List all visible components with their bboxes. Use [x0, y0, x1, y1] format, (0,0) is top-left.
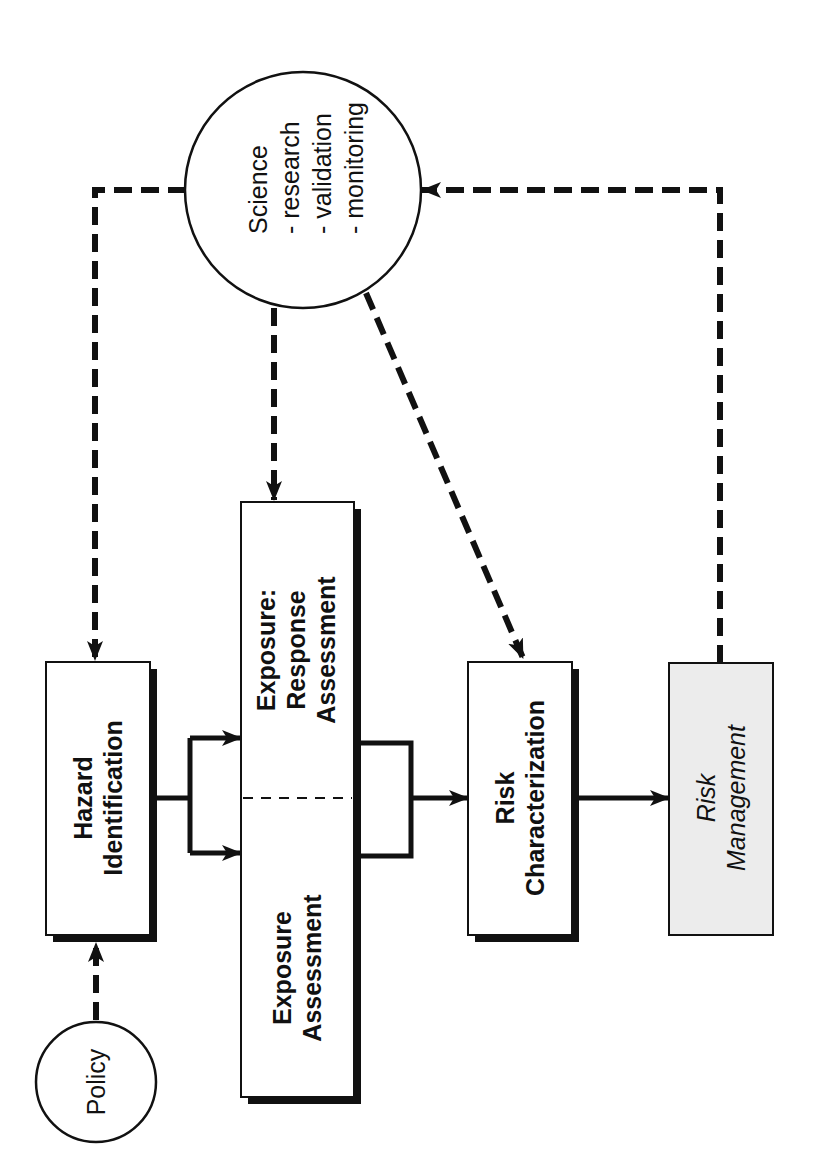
- exposure-response-line2: Response: [282, 590, 310, 710]
- exposure-response-line3: Assessment: [312, 576, 340, 724]
- dashed-connectors: [95, 190, 720, 1020]
- node-hazard-identification: Hazard Identification: [46, 662, 157, 942]
- risk-mgmt-line1: Risk: [692, 772, 720, 822]
- hazard-line2: Identification: [99, 720, 127, 876]
- edge-exposure-bracket: [360, 743, 411, 856]
- node-risk-characterization: Risk Characterization: [468, 662, 579, 942]
- risk-assessment-diagram: Science - research - validation - monito…: [0, 0, 822, 1174]
- exposure-line2: Assessment: [298, 894, 326, 1042]
- science-item-research: - research: [276, 121, 304, 234]
- hazard-line1: Hazard: [69, 756, 97, 839]
- node-policy: Policy: [36, 1022, 156, 1142]
- risk-mgmt-line2: Management: [722, 724, 750, 871]
- exposure-response-line1: Exposure:: [252, 589, 280, 711]
- edge-riskmgmt-to-science: [422, 190, 720, 663]
- node-exposure-response-assessment: Exposure: Response Assessment: [252, 576, 340, 724]
- node-risk-management: Risk Management: [669, 663, 773, 935]
- edge-science-to-hazard: [95, 190, 186, 660]
- solid-connectors: [157, 738, 669, 856]
- science-item-monitoring: - monitoring: [340, 102, 368, 234]
- risk-char-line2: Characterization: [521, 700, 549, 896]
- science-label: Science: [244, 145, 272, 234]
- exposure-line1: Exposure: [268, 911, 296, 1025]
- science-item-validation: - validation: [308, 113, 336, 234]
- node-science: Science - research - validation - monito…: [185, 72, 421, 308]
- edge-science-to-risk-char: [366, 293, 523, 658]
- policy-label: Policy: [82, 1048, 110, 1115]
- risk-char-line1: Risk: [491, 772, 519, 825]
